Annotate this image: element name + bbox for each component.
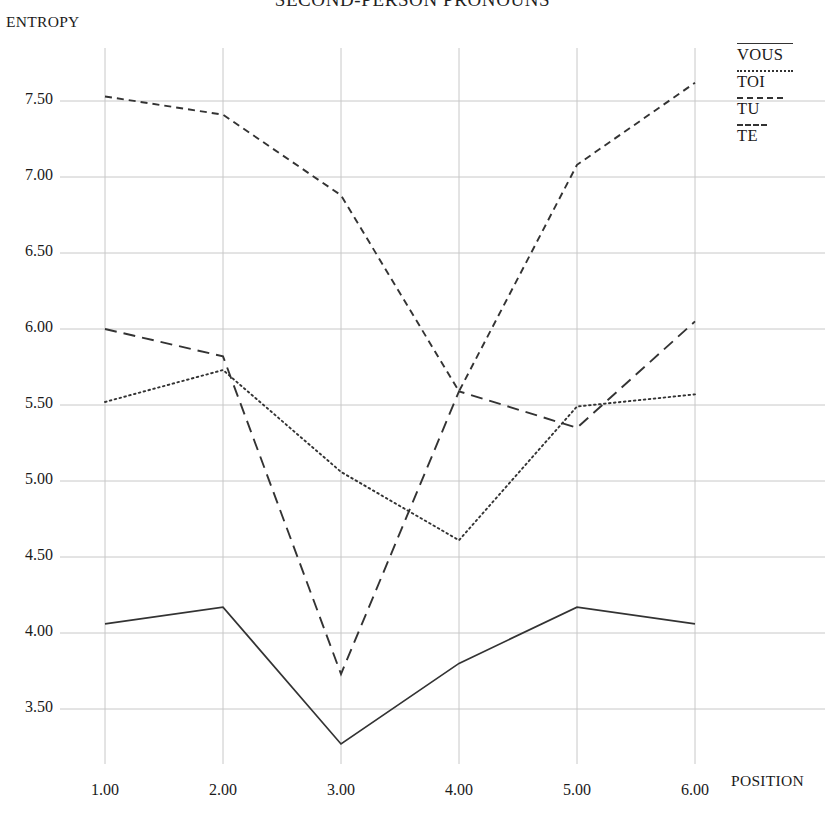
- x-tick-label: 3.00: [301, 781, 381, 799]
- x-tick-label: 1.00: [65, 781, 145, 799]
- y-tick-label: 7.50: [0, 90, 53, 108]
- x-tick-label: 2.00: [183, 781, 263, 799]
- y-tick-label: 3.50: [0, 698, 53, 716]
- series-lines: [105, 83, 695, 744]
- series-line-vous: [105, 607, 695, 744]
- x-tick-label: 5.00: [537, 781, 617, 799]
- series-line-te: [105, 321, 695, 674]
- legend-label: TOI: [737, 72, 765, 92]
- x-tick-label: 6.00: [655, 781, 735, 799]
- chart-legend: VOUSTOITUTE: [737, 40, 823, 148]
- y-tick-label: 5.50: [0, 394, 53, 412]
- legend-entry-tu[interactable]: TU: [737, 94, 823, 121]
- gridlines-horizontal: [60, 101, 825, 709]
- legend-entry-te[interactable]: TE: [737, 121, 823, 148]
- series-line-toi: [105, 370, 695, 540]
- gridlines-vertical: [105, 48, 695, 764]
- plot-area: [0, 0, 825, 819]
- legend-entry-vous[interactable]: VOUS: [737, 40, 823, 67]
- y-tick-label: 6.00: [0, 318, 53, 336]
- y-tick-label: 6.50: [0, 242, 53, 260]
- legend-entry-toi[interactable]: TOI: [737, 67, 823, 94]
- x-tick-label: 4.00: [419, 781, 499, 799]
- chart-root: SECOND-PERSON PRONOUNS ENTROPY POSITION …: [0, 0, 825, 819]
- y-tick-label: 4.00: [0, 622, 53, 640]
- y-tick-label: 7.00: [0, 166, 53, 184]
- legend-label: VOUS: [737, 45, 783, 65]
- series-line-tu: [105, 83, 695, 392]
- legend-label: TE: [737, 126, 758, 146]
- y-tick-label: 4.50: [0, 546, 53, 564]
- y-tick-label: 5.00: [0, 470, 53, 488]
- legend-label: TU: [737, 99, 760, 119]
